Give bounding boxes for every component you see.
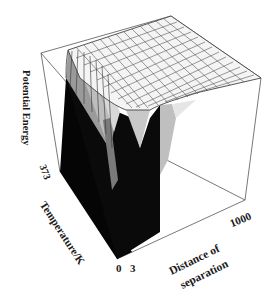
surface-plot	[0, 0, 273, 294]
z-axis-label: Potential Energy	[21, 70, 32, 146]
x-tick-min: 3	[130, 262, 136, 274]
origin-tick: 0	[116, 262, 122, 274]
